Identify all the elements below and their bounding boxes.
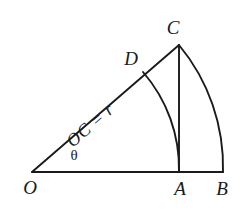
- geometry-figure: O A B C D θ OC = r: [0, 0, 250, 214]
- label-point-C: C: [167, 18, 180, 37]
- label-point-A: A: [174, 179, 186, 198]
- label-point-B: B: [216, 179, 228, 198]
- label-point-D: D: [124, 49, 138, 68]
- diagram-canvas: [0, 0, 250, 214]
- arc-inner-DA: [143, 72, 179, 172]
- arc-outer-CB: [179, 45, 223, 172]
- label-point-O: O: [23, 178, 37, 197]
